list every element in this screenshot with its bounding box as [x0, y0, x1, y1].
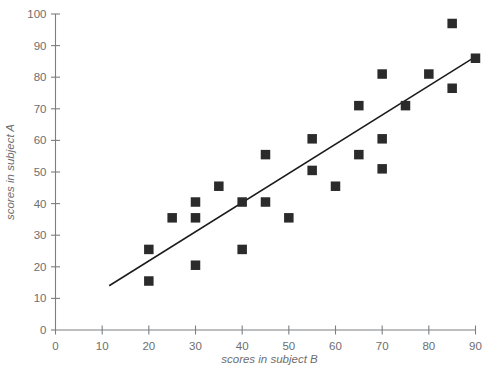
x-tick-label: 80	[422, 340, 435, 352]
y-tick-label: 20	[34, 261, 47, 273]
x-tick-label: 10	[96, 340, 109, 352]
data-point-marker	[424, 69, 434, 79]
data-point-marker	[191, 213, 201, 223]
data-point-marker	[191, 260, 201, 270]
data-point-marker	[167, 213, 177, 223]
data-point-marker	[354, 101, 364, 111]
x-tick-label: 50	[282, 340, 295, 352]
data-point-marker	[331, 181, 341, 191]
y-tick-label: 60	[34, 134, 47, 146]
data-point-marker	[354, 150, 364, 160]
scatter-chart: 0102030405060708090100010203040506070809…	[0, 0, 502, 374]
data-point-marker	[261, 197, 271, 207]
y-tick-label: 10	[34, 292, 47, 304]
y-tick-label: 30	[34, 229, 47, 241]
data-point-marker	[237, 245, 247, 255]
data-point-marker	[377, 164, 387, 174]
x-tick-label: 30	[189, 340, 202, 352]
data-point-marker	[447, 84, 457, 94]
data-point-marker	[447, 19, 457, 29]
data-point-marker	[307, 166, 317, 176]
y-tick-label: 80	[34, 71, 47, 83]
x-tick-label: 70	[376, 340, 389, 352]
x-tick-label: 0	[52, 340, 58, 352]
x-tick-label: 40	[236, 340, 249, 352]
data-point-marker	[144, 245, 154, 255]
data-point-marker	[144, 276, 154, 286]
y-tick-label: 100	[27, 8, 46, 20]
x-tick-label: 90	[469, 340, 482, 352]
data-point-marker	[307, 134, 317, 144]
data-point-marker	[377, 69, 387, 79]
y-tick-label: 50	[34, 166, 47, 178]
data-point-marker	[214, 181, 224, 191]
y-tick-label: 70	[34, 103, 47, 115]
x-tick-label: 60	[329, 340, 342, 352]
data-point-marker	[191, 197, 201, 207]
y-axis-title: scores in subject A	[4, 124, 16, 220]
y-tick-label: 90	[34, 40, 47, 52]
data-point-marker	[377, 134, 387, 144]
data-point-marker	[237, 197, 247, 207]
data-point-marker	[284, 213, 294, 223]
y-tick-label: 0	[40, 324, 46, 336]
trend-line	[109, 57, 475, 286]
y-tick-label: 40	[34, 198, 47, 210]
x-tick-label: 20	[142, 340, 155, 352]
chart-canvas: 0102030405060708090100010203040506070809…	[0, 0, 502, 374]
x-axis-title: scores in subject B	[221, 353, 318, 365]
data-point-marker	[261, 150, 271, 160]
data-point-marker	[401, 101, 411, 111]
data-point-marker	[471, 53, 481, 63]
